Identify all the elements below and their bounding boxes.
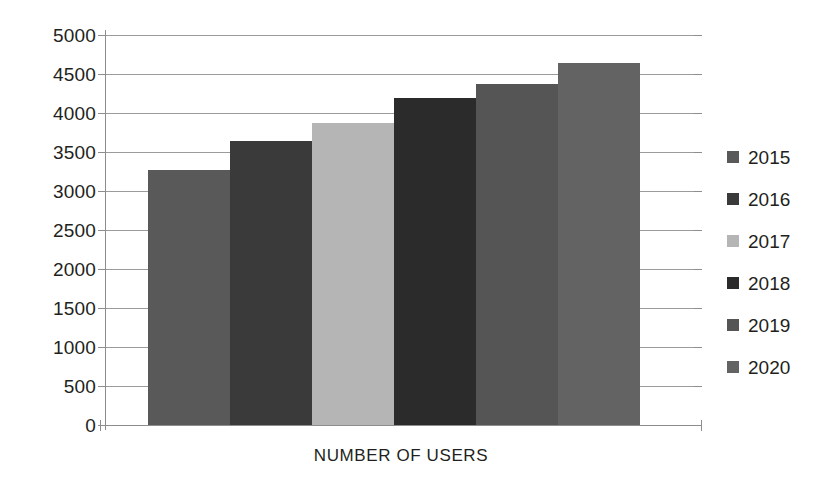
y-axis-tick [98,191,106,192]
y-axis-tick [98,347,106,348]
legend-swatch-icon [727,361,739,373]
legend-item-2017[interactable]: 2017 [727,220,832,262]
bar-2016 [230,141,312,425]
legend-swatch-icon [727,193,739,205]
bar-2018 [394,98,476,425]
y-axis-tick-label: 3000 [0,182,96,201]
x-axis-right-cap [701,420,702,431]
bar-chart: 0500100015002000250030003500400045005000… [0,0,832,489]
y-axis-tick [98,35,106,36]
legend-item-2015[interactable]: 2015 [727,136,832,178]
y-axis-tick-label: 5000 [0,26,96,45]
y-axis-tick [98,308,106,309]
legend-label: 2020 [748,358,790,377]
legend-label: 2019 [748,316,790,335]
legend-swatch-icon [727,151,739,163]
y-axis-tick-label: 2500 [0,221,96,240]
legend-label: 2017 [748,232,790,251]
legend-item-2016[interactable]: 2016 [727,178,832,220]
y-axis-tick-label: 500 [0,377,96,396]
bar-2015 [148,170,230,425]
y-axis-tick-labels: 0500100015002000250030003500400045005000 [0,0,96,489]
y-axis-tick [98,74,106,75]
y-axis-tick-label: 4500 [0,65,96,84]
y-axis-tick-right [694,230,702,231]
y-axis-tick-label: 1000 [0,338,96,357]
y-axis-tick [98,113,106,114]
y-axis-tick-right [694,386,702,387]
y-axis-tick [98,152,106,153]
y-axis-tick-right [694,269,702,270]
y-axis-tick [98,425,106,426]
legend-item-2019[interactable]: 2019 [727,304,832,346]
y-axis-tick-label: 1500 [0,299,96,318]
x-axis-title: NUMBER OF USERS [105,446,697,466]
y-axis-tick [98,386,106,387]
legend-label: 2016 [748,190,790,209]
legend-item-2018[interactable]: 2018 [727,262,832,304]
y-axis-tick-right [694,308,702,309]
x-axis-line [100,425,702,426]
y-axis-tick-right [694,347,702,348]
legend-label: 2015 [748,148,790,167]
y-axis-tick-right [694,113,702,114]
y-axis-tick-label: 0 [0,416,96,435]
bar-series [148,0,640,425]
legend-swatch-icon [727,235,739,247]
legend-item-2020[interactable]: 2020 [727,346,832,388]
bar-2020 [558,63,640,425]
y-axis-tick-right [694,74,702,75]
legend-swatch-icon [727,319,739,331]
bar-2019 [476,84,558,425]
y-axis-tick-right [694,191,702,192]
y-axis-tick-right [694,35,702,36]
chart-legend: 201520162017201820192020 [727,136,832,388]
bar-2017 [312,123,394,425]
y-axis-tick-label: 4000 [0,104,96,123]
y-axis-tick-right [694,152,702,153]
y-axis-tick-label: 2000 [0,260,96,279]
y-axis-tick-label: 3500 [0,143,96,162]
legend-swatch-icon [727,277,739,289]
y-axis-tick [98,269,106,270]
y-axis-tick [98,230,106,231]
legend-label: 2018 [748,274,790,293]
